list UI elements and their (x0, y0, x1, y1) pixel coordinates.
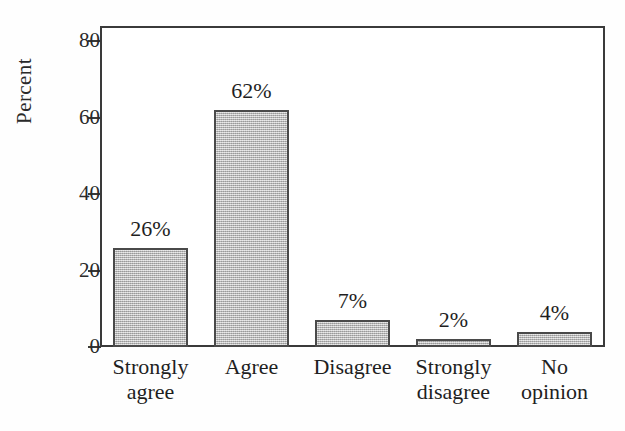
bar-chart-figure: Percent 020406080 26%62%7%2%4% Stronglya… (0, 0, 625, 431)
bar (214, 110, 289, 347)
bar (113, 248, 188, 347)
x-axis-label-line2: agree (96, 380, 206, 405)
x-axis-label-line2: opinion (500, 380, 610, 405)
x-axis-category-label: Stronglydisagree (399, 355, 509, 404)
y-axis-tick-label: 80 (48, 30, 100, 51)
bar-value-label: 4% (510, 302, 600, 324)
bar-value-label: 26% (106, 218, 196, 240)
x-axis-label-line1: Disagree (313, 354, 391, 379)
x-axis-category-label: Noopinion (500, 355, 610, 404)
bar (416, 339, 491, 347)
x-axis-label-line1: No (541, 354, 568, 379)
x-axis-label-line1: Strongly (416, 354, 492, 379)
x-axis-label-line1: Agree (225, 354, 279, 379)
bar-value-label: 2% (409, 309, 499, 331)
x-axis-label-line1: Strongly (113, 354, 189, 379)
bar (517, 332, 592, 347)
y-axis-tick-label: 60 (48, 107, 100, 128)
x-axis-label-line2: disagree (399, 380, 509, 405)
x-axis-category-label: Disagree (298, 355, 408, 380)
y-axis-title: Percent (12, 26, 38, 156)
bar-value-label: 7% (308, 290, 398, 312)
x-axis-category-label: Agree (197, 355, 307, 380)
y-axis-tick-label: 40 (48, 183, 100, 204)
bar-value-label: 62% (207, 80, 297, 102)
x-axis-category-label: Stronglyagree (96, 355, 206, 404)
bar (315, 320, 390, 347)
y-axis-tick-label: 20 (48, 260, 100, 281)
y-axis-tick-label: 0 (48, 336, 100, 357)
